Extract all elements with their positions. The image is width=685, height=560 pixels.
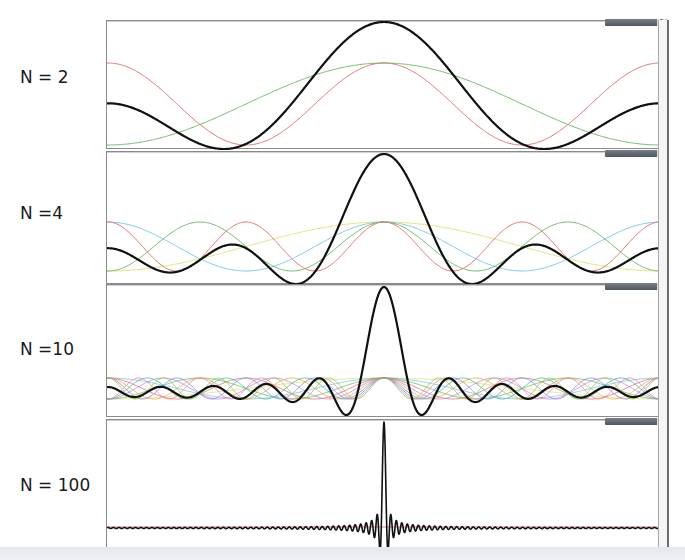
vertical-scrollbar[interactable] (658, 20, 669, 560)
plot-pane-n4: ^ (106, 151, 660, 284)
plot-canvas (107, 152, 659, 283)
bottom-strip (0, 547, 685, 560)
plot-pane-n100: ^ (106, 419, 660, 560)
plot-pane-n10: ^ (106, 284, 660, 417)
plot-pane-n2: ^ (106, 20, 660, 149)
plot-canvas (107, 285, 659, 416)
panel-label-n4: N =4 (20, 203, 63, 223)
plot-canvas (107, 420, 659, 560)
plot-canvas (107, 21, 659, 148)
panel-label-n10: N =10 (20, 339, 74, 359)
panel-label-n100: N = 100 (20, 475, 90, 495)
panel-label-n2: N = 2 (20, 67, 69, 87)
